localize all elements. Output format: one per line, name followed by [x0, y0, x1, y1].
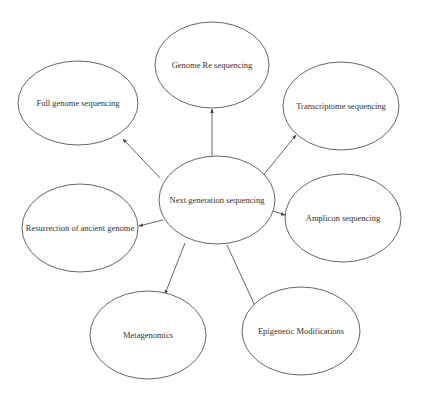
node-genome-re: Genome Re sequencing: [155, 22, 269, 108]
node-resurrection: Resurrection of ancient genome: [22, 184, 138, 272]
node-epigenetic: Epigenetic Modifications: [242, 287, 360, 375]
label-genome-re: Genome Re sequencing: [172, 60, 253, 70]
arrow-ngs-to-epigenetic: [227, 245, 256, 308]
label-amplicon: Amplicon sequencing: [306, 213, 381, 223]
node-amplicon: Amplicon sequencing: [285, 174, 401, 262]
ngs-applications-diagram: Genome Re sequencingFull genome sequenci…: [0, 0, 423, 401]
label-resurrection: Resurrection of ancient genome: [26, 223, 135, 233]
arrow-ngs-to-full-genome: [123, 139, 160, 178]
node-transcriptome: Transcriptome sequencing: [283, 62, 399, 150]
label-epigenetic: Epigenetic Modifications: [258, 326, 344, 336]
arrow-ngs-to-transcriptome: [261, 135, 296, 178]
arrow-ngs-to-metagenomics: [165, 243, 185, 294]
node-metagenomics: Metagenomics: [90, 291, 206, 379]
label-ngs: Next generation sequencing: [170, 195, 266, 205]
node-full-genome: Full genome sequencing: [18, 61, 138, 145]
label-metagenomics: Metagenomics: [123, 330, 173, 340]
label-full-genome: Full genome sequencing: [36, 98, 120, 108]
arrow-ngs-to-resurrection: [139, 220, 163, 226]
label-transcriptome: Transcriptome sequencing: [296, 101, 386, 111]
center-node-ngs: Next generation sequencing: [159, 156, 275, 244]
nodes-group: Genome Re sequencingFull genome sequenci…: [18, 22, 401, 379]
